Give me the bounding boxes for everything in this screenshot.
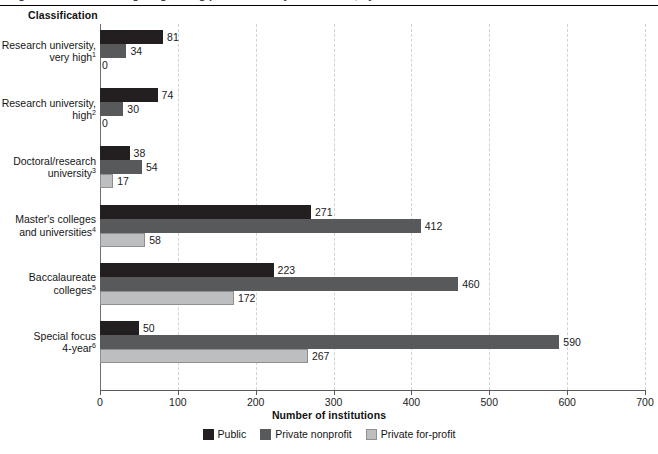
- bar-value-label: 460: [462, 277, 480, 291]
- x-axis-title: Number of institutions: [0, 409, 658, 421]
- bar-value-label: 0: [102, 116, 108, 130]
- x-tick-300: [334, 390, 335, 395]
- x-tick-label-700: 700: [636, 396, 654, 408]
- bar-value-label: 30: [127, 102, 139, 116]
- x-tick-100: [178, 390, 179, 395]
- bar: [100, 233, 145, 247]
- bar: [100, 263, 274, 277]
- legend-item: Private for-profit: [366, 428, 456, 440]
- category-axis-labels: Research university,very high1Research u…: [0, 24, 96, 390]
- legend-swatch-icon: [366, 429, 377, 440]
- bar-value-label: 50: [143, 321, 155, 335]
- legend-item: Private nonprofit: [260, 428, 351, 440]
- bar-value-label: 223: [278, 263, 296, 277]
- header-rule: [0, 5, 658, 6]
- chart-legend: PublicPrivate nonprofitPrivate for-profi…: [0, 428, 658, 440]
- classification-column-header: Classification: [28, 9, 98, 21]
- legend-swatch-icon: [203, 429, 214, 440]
- category-label: Research university,very high1: [0, 39, 96, 64]
- bar: [100, 160, 142, 174]
- bar-value-label: 74: [162, 88, 174, 102]
- x-tick-500: [489, 390, 490, 395]
- x-tick-0: [100, 390, 101, 395]
- x-tick-label-600: 600: [558, 396, 576, 408]
- bar-value-label: 58: [149, 233, 161, 247]
- bar-value-label: 54: [146, 160, 158, 174]
- x-tick-label-0: 0: [97, 396, 103, 408]
- bar-value-label: 271: [315, 205, 333, 219]
- x-tick-600: [567, 390, 568, 395]
- category-label: Research university,high2: [0, 97, 96, 122]
- bar-value-label: 34: [130, 44, 142, 58]
- legend-label: Private nonprofit: [275, 428, 351, 440]
- x-tick-200: [256, 390, 257, 395]
- bar-value-label: 267: [312, 349, 330, 363]
- x-tick-label-100: 100: [169, 396, 187, 408]
- bar: [100, 349, 308, 363]
- x-tick-label-400: 400: [403, 396, 421, 408]
- bar-value-label: 0: [102, 58, 108, 72]
- category-label: Baccalaureatecolleges5: [0, 271, 96, 296]
- legend-swatch-icon: [260, 429, 271, 440]
- bar: [100, 321, 139, 335]
- x-tick-label-500: 500: [481, 396, 499, 408]
- bar: [100, 291, 234, 305]
- bar-value-label: 590: [563, 335, 581, 349]
- bar: [100, 335, 559, 349]
- x-tick-400: [411, 390, 412, 395]
- category-label: Master's collegesand universities4: [0, 213, 96, 238]
- gridline-700: [645, 24, 646, 390]
- bar-value-label: 17: [117, 174, 129, 188]
- legend-label: Private for-profit: [381, 428, 456, 440]
- bar: [100, 44, 126, 58]
- x-tick-label-300: 300: [325, 396, 343, 408]
- bar-value-label: 172: [238, 291, 256, 305]
- bar: [100, 219, 421, 233]
- legend-item: Public: [203, 428, 247, 440]
- bar: [100, 205, 311, 219]
- bar: [100, 102, 123, 116]
- legend-label: Public: [218, 428, 247, 440]
- bar-value-label: 38: [134, 146, 146, 160]
- bar: [100, 88, 158, 102]
- bar: [100, 174, 113, 188]
- x-tick-700: [645, 390, 646, 395]
- chart-figure: Figure 1. Number of degree-granting post…: [0, 0, 658, 454]
- plot-area: 8134074300385417271412582234601725059026…: [100, 24, 645, 390]
- bar-value-label: 412: [425, 219, 443, 233]
- bar: [100, 146, 130, 160]
- bar: [100, 30, 163, 44]
- x-tick-label-200: 200: [247, 396, 265, 408]
- category-label: Doctoral/researchuniversity3: [0, 155, 96, 180]
- category-label: Special focus4-year6: [0, 330, 96, 355]
- x-axis-line: [100, 390, 646, 391]
- bar-value-label: 81: [167, 30, 179, 44]
- bar: [100, 277, 458, 291]
